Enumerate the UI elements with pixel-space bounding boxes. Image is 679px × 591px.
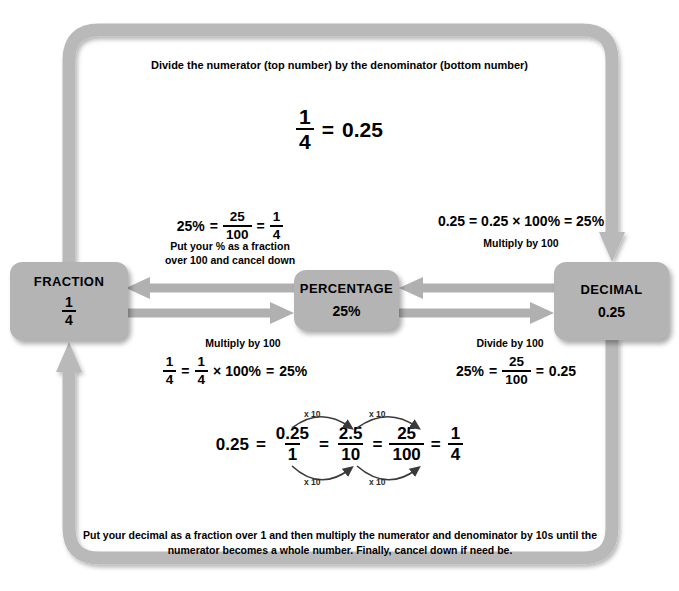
x10-label-top-left: x 10	[304, 409, 321, 419]
x10-arc-top-right	[357, 417, 417, 428]
x10-label-top-right: x 10	[369, 409, 386, 419]
x10-label-bottom-left: x 10	[304, 477, 321, 487]
diagram-canvas: x 10 x 10 x 10 x 10 Divide the numerator…	[0, 0, 679, 591]
x10-arrows	[0, 0, 679, 591]
x10-arc-bottom-left	[292, 466, 350, 480]
x10-arc-top-left	[292, 417, 350, 428]
x10-label-bottom-right: x 10	[369, 477, 386, 487]
x10-arc-bottom-right	[357, 466, 417, 480]
